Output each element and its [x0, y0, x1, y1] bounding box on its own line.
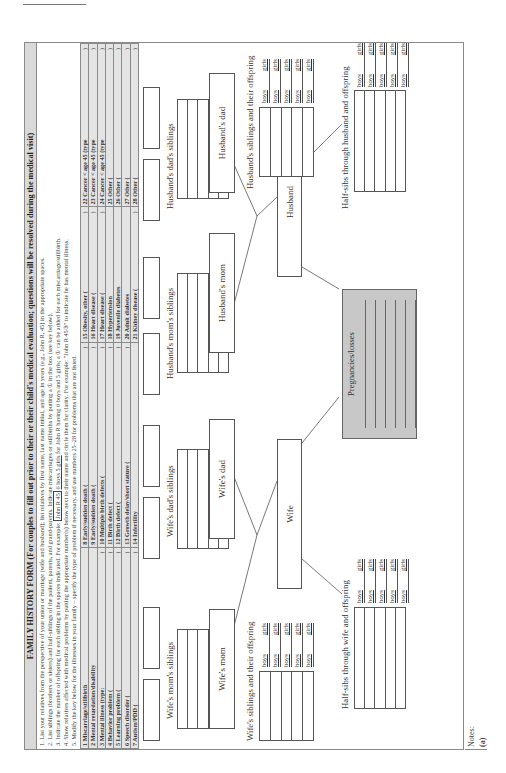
example-underline: 6 boys 5 girls [54, 455, 61, 489]
notes-area[interactable]: Notes: (a) [465, 43, 487, 750]
key-cell[interactable]: 26 Other () [114, 44, 122, 207]
offspring-row[interactable]: boysgirls [354, 43, 365, 87]
instruction-4: 4. Show relatives affected with medical … [62, 46, 70, 746]
wife-siblings-grid[interactable] [259, 671, 314, 741]
pregnancy-line[interactable] [365, 300, 366, 428]
instruction-3-after: for John R having 6 boys and 5 girls; a … [54, 237, 61, 455]
offspring-row[interactable]: boysgirls [303, 623, 314, 667]
half-sibs-wife-label: Half-sibs through wife and offspring [340, 580, 350, 709]
family-history-form-page: FAMILY HISTORY FORM (For couples to fill… [24, 42, 488, 750]
offspring-row[interactable]: boysgirls [376, 559, 387, 603]
offspring-row[interactable]: boysgirls [292, 59, 303, 103]
offspring-row[interactable]: boysgirls [398, 559, 409, 603]
key-cell[interactable]: 3 Mental illness (type:) [97, 547, 105, 748]
offspring-row[interactable]: boysgirls [270, 623, 281, 667]
key-cell[interactable]: 10 Multiple birth defects () [97, 342, 105, 547]
husband-moms-sibling-box-2[interactable] [143, 257, 160, 319]
figure-caption: (a) [478, 738, 487, 747]
key-cell[interactable]: 24 Cancer < age 45 (type) [97, 44, 105, 207]
family-history-form: FAMILY HISTORY FORM (For couples to fill… [24, 42, 464, 750]
wife-moms-sibling-box-1[interactable] [143, 679, 160, 741]
key-cell[interactable]: 2 Mental retardation/disability [89, 547, 97, 748]
key-cell[interactable]: 19 Juvenile diabetes [114, 207, 122, 342]
key-cell[interactable]: 23 Cancer < age 45 (type) [89, 44, 97, 207]
wife-siblings-label: Wife's siblings and their offspring [245, 622, 255, 741]
example-box: John R 45 [53, 491, 62, 521]
husband-dad-label: Husband's dad [217, 107, 227, 159]
instruction-2: 2. List siblings (brothers or sisters) a… [46, 46, 54, 746]
husband-dads-sibling-box-1[interactable] [143, 159, 160, 221]
pedigree-diagram: Wife's mom's siblings Wife's dad's sibli… [137, 43, 464, 749]
key-cell[interactable]: 13 Growth delay/short stature () [122, 342, 130, 547]
wife-label: Wife [285, 505, 295, 523]
offspring-row[interactable]: boysgirls [387, 43, 398, 87]
pregnancies-losses-box[interactable]: Pregnancies/losses [342, 289, 417, 439]
key-row: 3 Mental illness (type:)10 Multiple birt… [97, 44, 105, 749]
wife-mom-box[interactable]: Wife's mom [209, 609, 235, 729]
offspring-row[interactable]: boysgirls [365, 43, 376, 87]
key-cell[interactable]: 25 Other () [105, 44, 113, 207]
husband-mom-box[interactable]: Husband's mom [209, 233, 235, 353]
half-sibs-husband-offspring: boysgirls boysgirls boysgirls boysgirls … [354, 43, 409, 87]
key-cell[interactable]: 27 Other () [122, 44, 130, 207]
wife-dads-sibling-box-1[interactable] [143, 497, 160, 559]
key-cell[interactable]: 1 Miscarriage/stillbirth [81, 547, 89, 748]
wife-moms-siblings-label: Wife's mom's siblings [165, 642, 175, 719]
pregnancy-line[interactable] [415, 300, 416, 428]
instruction-1: 1. List your relatives from the perspect… [38, 46, 46, 746]
half-sibs-husband-label: Half-sibs through husband and offspring [340, 66, 350, 209]
key-cell[interactable]: 17 Heart disease () [97, 207, 105, 342]
key-cell[interactable]: 16 Heart disease () [89, 207, 97, 342]
wife-mom-label: Wife's mom [217, 647, 227, 691]
key-cell[interactable]: 4 Behavior problem () [105, 547, 113, 748]
instruction-3: 3. Indicate the number of offspring for … [54, 46, 62, 746]
husband-dads-sibling-box-2[interactable] [143, 87, 160, 149]
header-rule [23, 4, 86, 5]
notes-label: Notes: [467, 726, 476, 747]
offspring-row[interactable]: boysgirls [270, 59, 281, 103]
key-cell[interactable]: 6 Speech disorder () [122, 547, 130, 748]
pregnancy-line[interactable] [405, 300, 406, 428]
key-cell[interactable]: 5 Learning problem () [114, 547, 122, 748]
wife-box[interactable]: Wife [277, 439, 302, 589]
offspring-row[interactable]: boysgirls [259, 59, 270, 103]
wife-dad-label: Wife's dad [217, 460, 227, 498]
key-row: 6 Speech disorder ()13 Growth delay/shor… [122, 44, 130, 749]
instruction-5: 5. Modify the key below for the illnesse… [70, 46, 78, 746]
key-cell[interactable]: 22 Cancer < age 45 (type) [81, 44, 89, 207]
half-sibs-husband-grid[interactable] [354, 90, 406, 192]
offspring-row[interactable]: boysgirls [281, 59, 292, 103]
key-cell[interactable]: 20 Adult diabetes [122, 207, 130, 342]
husband-siblings-offspring: boysgirls boysgirls boysgirls boysgirls … [259, 59, 314, 103]
offspring-row[interactable]: boysgirls [303, 59, 314, 103]
key-cell[interactable]: 11 Birth defect () [105, 342, 113, 547]
key-cell[interactable]: 8 Early/sudden death () [81, 342, 89, 547]
key-cell[interactable]: 12 Birth defect () [114, 342, 122, 547]
pregnancy-line[interactable] [375, 300, 376, 428]
offspring-row[interactable]: boysgirls [259, 623, 270, 667]
husband-moms-sibling-box-1[interactable] [143, 333, 160, 395]
offspring-row[interactable]: boysgirls [398, 43, 409, 87]
pregnancy-line[interactable] [395, 300, 396, 428]
instruction-3-text: 3. Indicate the number of offspring for … [54, 521, 61, 746]
offspring-row[interactable]: boysgirls [387, 559, 398, 603]
husband-dad-box[interactable]: Husband's dad [209, 73, 235, 193]
wife-siblings-offspring: boysgirls boysgirls boysgirls boysgirls … [259, 623, 314, 667]
wife-dads-sibling-box-2[interactable] [143, 425, 160, 487]
wife-moms-sibling-box-2[interactable] [143, 607, 160, 669]
form-title: FAMILY HISTORY FORM (For couples to fill… [25, 43, 37, 749]
half-sibs-wife-grid[interactable] [354, 607, 406, 709]
key-cell[interactable]: 15 Obesity, other () [81, 207, 89, 342]
key-cell[interactable]: 18 Hypertension [105, 207, 113, 342]
husband-siblings-grid[interactable] [259, 107, 314, 177]
key-cell[interactable]: 9 Early/sudden death () [89, 342, 97, 547]
wife-dad-box[interactable]: Wife's dad [209, 419, 235, 539]
offspring-row[interactable]: boysgirls [281, 623, 292, 667]
offspring-row[interactable]: boysgirls [376, 43, 387, 87]
key-row: 2 Mental retardation/disability9 Early/s… [89, 44, 97, 749]
pregnancy-line[interactable] [385, 300, 386, 428]
offspring-row[interactable]: boysgirls [292, 623, 303, 667]
offspring-row[interactable]: boysgirls [354, 559, 365, 603]
offspring-row[interactable]: boysgirls [365, 559, 376, 603]
illness-key-table: 1 Miscarriage/stillbirth8 Early/sudden d… [80, 43, 139, 749]
